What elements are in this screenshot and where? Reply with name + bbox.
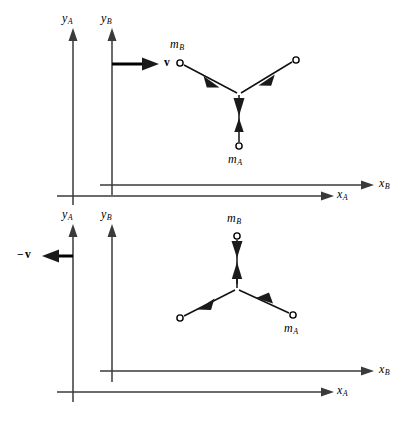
vector-mA-to-center-bottom: [239, 290, 289, 313]
label-velocity-v-top: v: [164, 57, 170, 69]
label-x-axis-B-bottom: xB: [379, 363, 389, 375]
x-axis-B-bottom: [100, 367, 374, 376]
particle-mA-top: [236, 143, 242, 149]
vector-mA-up-top: [234, 118, 243, 142]
velocity-vector-minus-v-bottom: [42, 250, 73, 263]
label-x-axis-A-bottom: xA: [337, 384, 347, 396]
y-axis-B-top: [108, 28, 117, 195]
label-mB-top: mB: [170, 38, 184, 50]
label-y-axis-A-bottom: yA: [62, 208, 72, 220]
vector-center-up-bottom: [232, 262, 242, 288]
panel-bottom: [42, 224, 374, 402]
panel-top: [57, 28, 374, 205]
x-axis-A-top: [57, 192, 334, 201]
figure-canvas: [0, 0, 404, 422]
y-axis-A-top: [69, 28, 78, 205]
label-y-axis-B-bottom: yB: [101, 208, 111, 220]
x-axis-A-bottom: [57, 388, 334, 397]
physics-figure: yA yB xA xB v mB mA yA yB xA xB −v mB mA: [0, 0, 404, 422]
particle-mB-bottom: [234, 233, 240, 239]
vector-mB-to-center-top: [184, 65, 237, 93]
label-mA-bottom: mA: [284, 322, 298, 334]
y-axis-B-bottom: [108, 224, 117, 382]
particle-mB-top: [177, 60, 183, 66]
particle-right-top: [293, 57, 299, 63]
label-velocity-minus-v-bottom: −v: [17, 249, 31, 261]
x-axis-B-top: [100, 181, 374, 190]
label-x-axis-A-top: xA: [337, 188, 347, 200]
label-mB-bottom: mB: [227, 212, 241, 224]
vector-center-to-left-bottom: [184, 290, 235, 316]
label-y-axis-A-top: yA: [62, 12, 72, 24]
particle-left-bottom: [177, 315, 183, 321]
velocity-vector-v-top: [112, 58, 159, 71]
y-axis-A-bottom: [69, 224, 78, 402]
label-mA-top: mA: [228, 153, 242, 165]
label-y-axis-B-top: yB: [101, 12, 111, 24]
particle-mA-bottom: [290, 312, 296, 318]
label-x-axis-B-top: xB: [379, 177, 389, 189]
vector-right-to-center-top: [241, 62, 292, 93]
